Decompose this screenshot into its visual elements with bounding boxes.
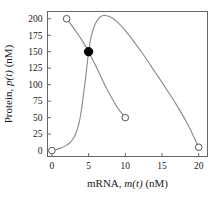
y-tick-label-0: 0 xyxy=(38,146,43,156)
open-marker-origin xyxy=(49,147,56,154)
x-tick-label-5: 5 xyxy=(86,161,91,171)
nullcline-plot: 05101520 0255075100125150175200 mRNA, m(… xyxy=(0,0,221,199)
chart-figure: 05101520 0255075100125150175200 mRNA, m(… xyxy=(0,0,221,199)
x-tick-label-10: 10 xyxy=(121,161,131,171)
y-tick-label-150: 150 xyxy=(28,47,43,57)
y-tick-label-200: 200 xyxy=(28,14,43,24)
y-tick-label-175: 175 xyxy=(28,31,43,41)
y-tick-label-100: 100 xyxy=(28,80,43,90)
y-tick-label-125: 125 xyxy=(28,63,43,73)
y-tick-label-50: 50 xyxy=(33,113,43,123)
fixed-point-marker xyxy=(84,48,92,56)
x-tick-label-0: 0 xyxy=(50,161,55,171)
y-axis-label: Protein, p(t) (nM) xyxy=(2,44,15,123)
x-axis-label: mRNA, m(t) (nM) xyxy=(87,177,168,190)
open-marker-bottom-right xyxy=(195,144,202,151)
open-marker-mid-right xyxy=(122,114,129,121)
open-marker-top-left xyxy=(63,15,70,22)
y-axis-label-text: Protein, p(t) (nM) xyxy=(2,44,15,123)
y-tick-label-75: 75 xyxy=(33,96,43,106)
x-tick-label-15: 15 xyxy=(157,161,167,171)
x-axis-label-text: mRNA, m(t) (nM) xyxy=(87,177,168,190)
y-tick-label-25: 25 xyxy=(33,129,43,139)
x-tick-label-20: 20 xyxy=(194,161,204,171)
